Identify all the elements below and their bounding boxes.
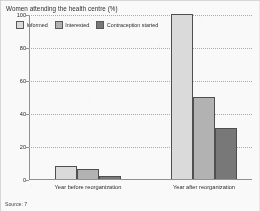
- bar-year-after-reorganization-contraception-started: [215, 128, 237, 179]
- source-note: Source: 7: [5, 201, 27, 207]
- y-tick-mark-40: [26, 114, 29, 115]
- y-tick-mark-60: [26, 81, 29, 82]
- page-rule-right: [259, 0, 260, 211]
- bar-year-after-reorganization-interested: [193, 97, 215, 180]
- figure-page: Women attending the health centre (%) In…: [0, 0, 260, 211]
- bar-year-before-reorganization-interested: [77, 169, 99, 179]
- legend-swatch-informed: [16, 21, 24, 29]
- bar-group-year-before-reorganization: Year before reorganization: [55, 166, 121, 179]
- y-tick-mark-20: [26, 147, 29, 148]
- x-axis-label-year-after-reorganization: Year after reorganization: [173, 184, 235, 191]
- y-tick-label-80: 80: [20, 45, 26, 51]
- page-rule-left: [0, 0, 1, 211]
- y-tick-label-100: 100: [17, 12, 26, 18]
- plot-area: 020406080100Year before reorganizationYe…: [29, 15, 252, 180]
- y-tick-label-20: 20: [20, 144, 26, 150]
- y-tick-label-0: 0: [23, 177, 26, 183]
- y-axis-line: [29, 15, 30, 180]
- y-tick-label-40: 40: [20, 111, 26, 117]
- x-axis-line: [29, 179, 252, 180]
- bar-year-after-reorganization-informed: [171, 14, 193, 179]
- y-tick-mark-80: [26, 48, 29, 49]
- y-tick-mark-100: [26, 15, 29, 16]
- bar-group-year-after-reorganization: Year after reorganization: [171, 14, 237, 179]
- y-tick-mark-0: [26, 180, 29, 181]
- bar-year-before-reorganization-informed: [55, 166, 77, 179]
- bar-year-before-reorganization-contraception-started: [99, 176, 121, 179]
- page-rule-top: [0, 0, 260, 1]
- x-axis-label-year-before-reorganization: Year before reorganization: [55, 184, 122, 191]
- y-tick-label-60: 60: [20, 78, 26, 84]
